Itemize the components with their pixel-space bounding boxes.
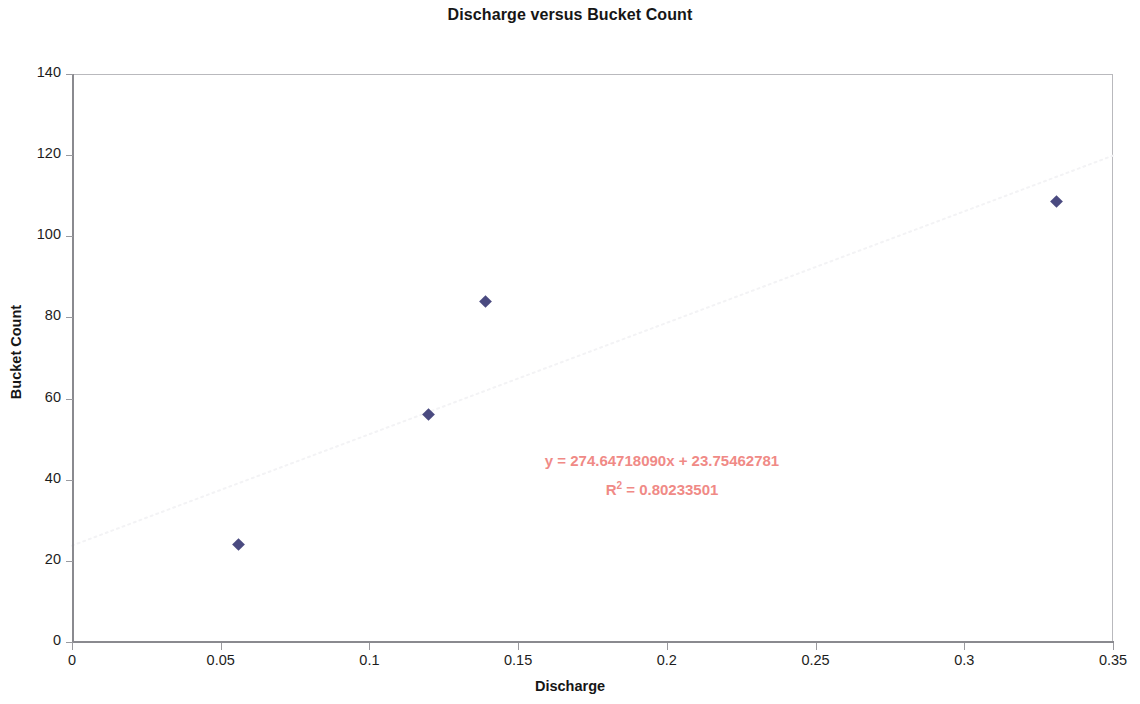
y-tick-mark bbox=[66, 317, 73, 318]
y-axis-title: Bucket Count bbox=[4, 0, 28, 704]
x-tick-mark bbox=[816, 643, 817, 650]
x-tick-label: 0.25 bbox=[756, 652, 876, 668]
x-tick-mark bbox=[72, 643, 73, 650]
x-tick-label: 0 bbox=[12, 652, 132, 668]
plot-area bbox=[72, 74, 1113, 642]
scatter-chart: Discharge versus Bucket Count 0204060801… bbox=[0, 0, 1140, 704]
x-tick-mark bbox=[964, 643, 965, 650]
chart-title: Discharge versus Bucket Count bbox=[0, 6, 1140, 24]
r-squared-symbol: R bbox=[606, 481, 617, 498]
x-tick-label: 0.1 bbox=[309, 652, 429, 668]
y-tick-mark bbox=[66, 74, 73, 75]
x-tick-label: 0.05 bbox=[161, 652, 281, 668]
y-axis-line bbox=[72, 74, 74, 643]
x-tick-label: 0.3 bbox=[904, 652, 1024, 668]
y-tick-mark bbox=[66, 155, 73, 156]
x-tick-mark bbox=[667, 643, 668, 650]
x-tick-mark bbox=[369, 643, 370, 650]
r-squared-text: R2 = 0.80233501 bbox=[462, 473, 862, 502]
regression-equation-text: y = 274.64718090x + 23.75462781 bbox=[462, 448, 862, 473]
x-axis-line bbox=[72, 641, 1114, 643]
trendline-equation-annotation: y = 274.64718090x + 23.75462781 R2 = 0.8… bbox=[462, 448, 862, 502]
x-tick-mark bbox=[518, 643, 519, 650]
y-tick-mark bbox=[66, 399, 73, 400]
y-axis-title-text: Bucket Count bbox=[8, 305, 24, 399]
x-tick-mark bbox=[1113, 643, 1114, 650]
x-tick-label: 0.15 bbox=[458, 652, 578, 668]
x-tick-mark bbox=[221, 643, 222, 650]
x-axis-title: Discharge bbox=[0, 678, 1140, 694]
x-tick-label: 0.2 bbox=[607, 652, 727, 668]
y-tick-mark bbox=[66, 480, 73, 481]
x-tick-label: 0.35 bbox=[1053, 652, 1140, 668]
y-tick-mark bbox=[66, 561, 73, 562]
r-squared-value: = 0.80233501 bbox=[622, 481, 718, 498]
y-tick-mark bbox=[66, 236, 73, 237]
